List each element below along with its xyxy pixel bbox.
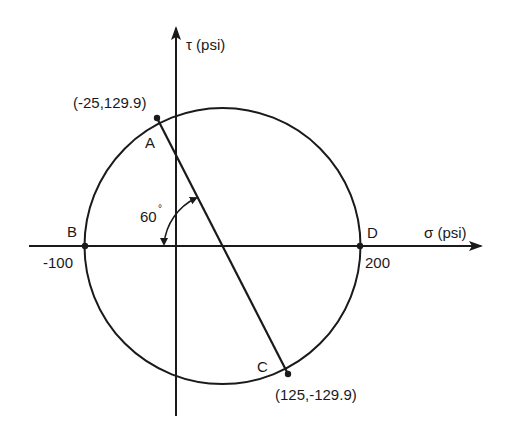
angle-degree-symbol: °	[158, 203, 162, 214]
point-c-dot	[285, 371, 291, 377]
point-a-dot	[154, 115, 160, 121]
point-c-label: C	[257, 358, 268, 375]
point-b-dot	[82, 243, 88, 249]
angle-label: 60	[140, 208, 157, 225]
tau-axis-label: τ (psi)	[186, 36, 225, 53]
angle-arc-start-arrow-icon	[160, 238, 168, 246]
point-b-label: B	[67, 223, 77, 240]
point-a-label: A	[145, 134, 155, 151]
point-a-coords: (-25,129.9)	[73, 94, 146, 111]
point-b-value: -100	[43, 254, 73, 271]
angle-arc	[164, 198, 196, 244]
point-d-dot	[357, 243, 363, 249]
mohrs-circle-diagram: τ (psi) σ (psi) A (-25,129.9) B -100 C (…	[0, 0, 506, 439]
point-d-value: 200	[365, 254, 390, 271]
point-c-coords: (125,-129.9)	[275, 386, 357, 403]
point-d-label: D	[367, 224, 378, 241]
sigma-axis-label: σ (psi)	[424, 224, 467, 241]
